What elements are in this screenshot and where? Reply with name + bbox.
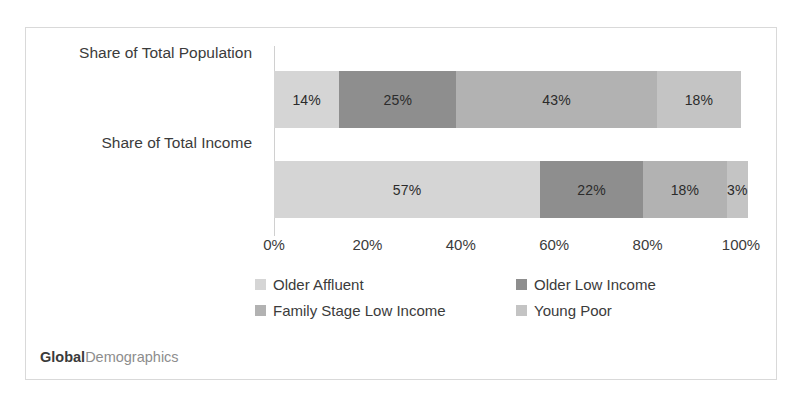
category-label-income-text: Share of Total Income (102, 134, 253, 152)
legend-item-label: Older Affluent (273, 276, 364, 293)
bar-segment-population-older-low-income[interactable]: 25% (339, 71, 456, 128)
x-axis: 0% 20% 40% 60% 80% 100% (274, 236, 741, 258)
x-tick-80: 80% (633, 236, 663, 253)
stacked-bar-population: 14% 25% 43% 18% (274, 71, 741, 128)
x-tick-40: 40% (446, 236, 476, 253)
bar-segment-label: 22% (577, 182, 606, 198)
bar-segment-label: 14% (292, 92, 321, 108)
legend-swatch-icon (255, 305, 266, 316)
bar-segment-label: 43% (542, 92, 571, 108)
chart-frame: Share of Total Population Share of Total… (25, 27, 777, 380)
legend-item-older-low-income[interactable]: Older Low Income (516, 271, 726, 297)
legend-item-young-poor[interactable]: Young Poor (516, 297, 726, 323)
bar-segment-population-family-stage-low-income[interactable]: 43% (456, 71, 657, 128)
bar-segment-population-young-poor[interactable]: 18% (657, 71, 741, 128)
bar-segment-income-young-poor[interactable]: 3% (727, 161, 748, 218)
bar-segment-label: 25% (383, 92, 412, 108)
legend-item-label: Young Poor (534, 302, 612, 319)
legend-swatch-icon (255, 279, 266, 290)
stacked-bar-income: 57% 22% 18% 3% (274, 161, 741, 218)
legend-row-1: Older Affluent Older Low Income (226, 271, 726, 297)
legend-swatch-icon (516, 305, 527, 316)
x-tick-20: 20% (352, 236, 382, 253)
bar-segment-income-family-stage-low-income[interactable]: 18% (643, 161, 727, 218)
bar-segment-label: 18% (685, 92, 714, 108)
legend-item-family-stage-low-income[interactable]: Family Stage Low Income (226, 297, 516, 323)
legend-item-label: Family Stage Low Income (273, 302, 446, 319)
brand-bold-text: Global (40, 349, 85, 365)
bar-segment-label: 18% (671, 182, 700, 198)
legend-item-label: Older Low Income (534, 276, 656, 293)
legend-item-older-affluent[interactable]: Older Affluent (226, 271, 516, 297)
legend-swatch-icon (516, 279, 527, 290)
brand-light-text: Demographics (85, 349, 179, 365)
chart-legend: Older Affluent Older Low Income Family S… (226, 271, 726, 327)
x-tick-0: 0% (263, 236, 285, 253)
category-label-population-text: Share of Total Population (79, 44, 252, 62)
bar-segment-income-older-affluent[interactable]: 57% (274, 161, 540, 218)
bar-segment-label: 57% (393, 182, 422, 198)
x-tick-60: 60% (539, 236, 569, 253)
bar-segment-label: 3% (727, 182, 748, 198)
plot-area: 14% 25% 43% 18% 57% 22% 18% 3% (274, 46, 741, 236)
bar-segment-population-older-affluent[interactable]: 14% (274, 71, 339, 128)
brand-logo: GlobalDemographics (40, 349, 179, 365)
legend-row-2: Family Stage Low Income Young Poor (226, 297, 726, 323)
bar-segment-income-older-low-income[interactable]: 22% (540, 161, 643, 218)
x-tick-100: 100% (722, 236, 760, 253)
